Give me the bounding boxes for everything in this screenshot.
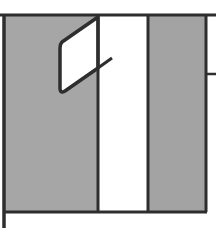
numeral-one-graphic [0, 0, 216, 228]
right-grey-panel [148, 16, 206, 212]
numeral-stem [98, 16, 148, 212]
